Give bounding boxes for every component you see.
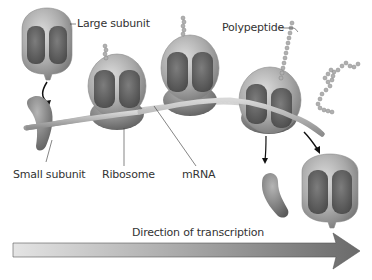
label-ribosome: Ribosome [102,168,155,181]
released-large-subunit [302,154,358,228]
label-large-subunit: Large subunit [77,17,150,30]
label-mrna: mRNA [182,168,215,181]
label-direction: Direction of transcription [132,226,264,239]
polyribosome-diagram: Large subunit Polypeptide Small subunit … [0,0,372,280]
free-large-subunit [22,8,72,80]
released-small-subunit [262,173,288,217]
label-polypeptide: Polypeptide [222,21,284,34]
released-polypeptide [316,61,360,114]
label-small-subunit: Small subunit [13,168,85,181]
